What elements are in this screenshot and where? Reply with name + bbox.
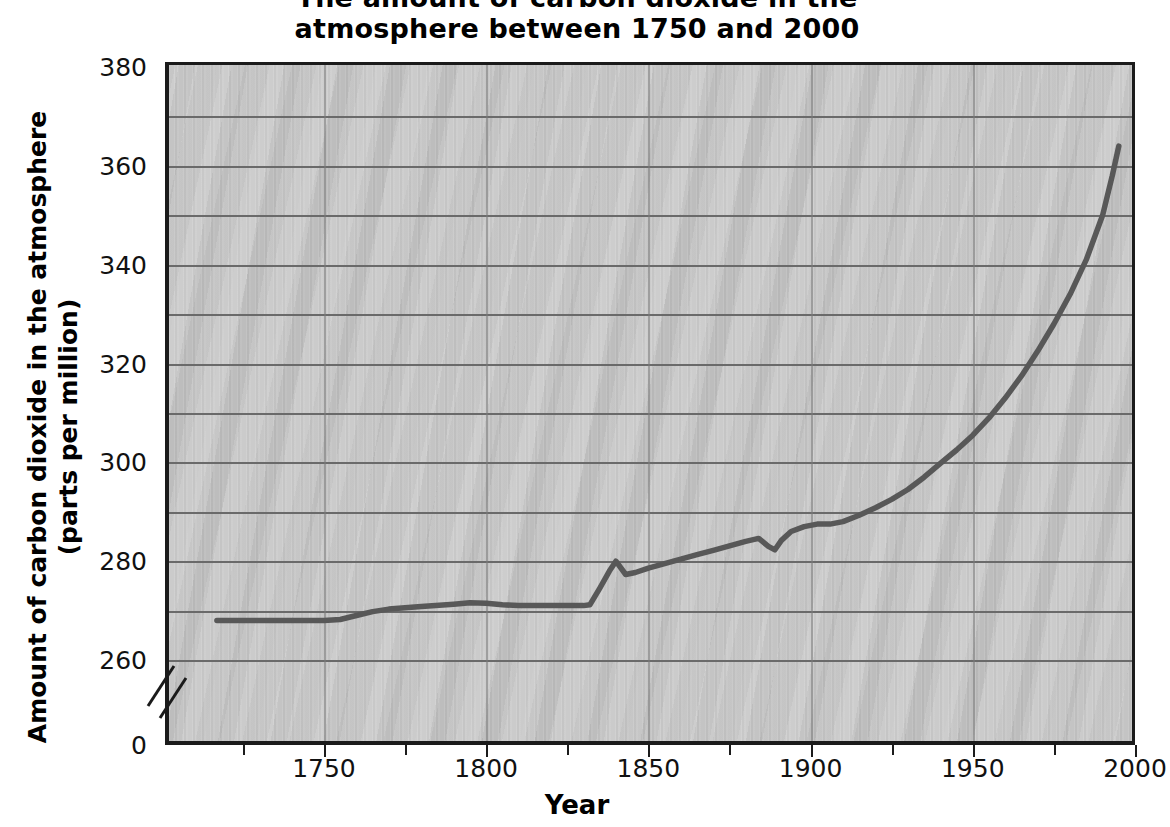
x-tick-label-1800: 1800 — [426, 754, 546, 783]
chart-title: The amount of carbon dioxide in the atmo… — [0, 0, 1154, 44]
x-minor-tick-1925 — [892, 745, 894, 755]
x-tick-mark-1850 — [648, 745, 650, 757]
plot-area: 3803603403203002802600 17501800185019001… — [165, 62, 1135, 745]
y-tick-label-260: 260 — [59, 646, 147, 675]
x-tick-mark-1750 — [324, 745, 326, 757]
y-axis-title-line-1: Amount of carbon dioxide in the atmosphe… — [23, 111, 52, 743]
y-tick-label-340: 340 — [59, 251, 147, 280]
co2-series-line — [217, 146, 1119, 620]
y-tick-label-320: 320 — [59, 350, 147, 379]
x-tick-label-1750: 1750 — [264, 754, 384, 783]
x-minor-tick-1975 — [1054, 745, 1056, 755]
x-axis-title: Year — [0, 790, 1154, 820]
y-tick-label-300: 300 — [59, 448, 147, 477]
x-minor-tick-1725 — [243, 745, 245, 755]
x-minor-tick-1875 — [729, 745, 731, 755]
chart-title-line-2: atmosphere between 1750 and 2000 — [0, 13, 1154, 44]
y-tick-label-380: 380 — [59, 53, 147, 82]
x-tick-label-1950: 1950 — [913, 754, 1033, 783]
data-series-line — [165, 62, 1135, 745]
x-tick-label-1850: 1850 — [588, 754, 708, 783]
y-tick-label-360: 360 — [59, 152, 147, 181]
x-tick-label-1900: 1900 — [751, 754, 871, 783]
chart-title-line-1: The amount of carbon dioxide in the — [0, 0, 1154, 13]
x-tick-mark-1950 — [973, 745, 975, 757]
x-minor-tick-1825 — [567, 745, 569, 755]
x-tick-label-2000: 2000 — [1075, 754, 1170, 783]
x-tick-mark-1900 — [811, 745, 813, 757]
x-tick-mark-1800 — [486, 745, 488, 757]
y-tick-label-280: 280 — [59, 547, 147, 576]
x-minor-tick-1775 — [405, 745, 407, 755]
x-tick-mark-2000 — [1135, 745, 1137, 757]
y-tick-label-0: 0 — [59, 731, 147, 760]
